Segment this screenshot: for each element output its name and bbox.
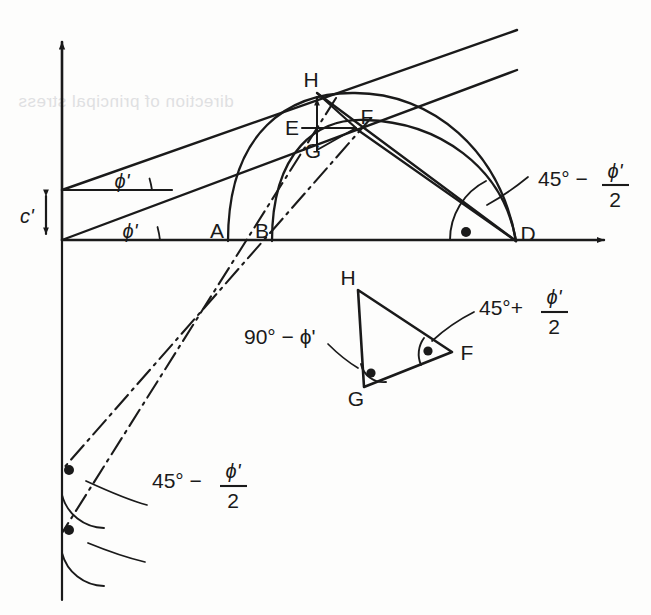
- label-tri-point-F: F: [461, 341, 474, 364]
- label-tri-point-H: H: [340, 266, 355, 289]
- phi-lower-arc: [158, 227, 161, 240]
- label-point-E: E: [285, 116, 299, 139]
- chord-F-to-D: [355, 128, 516, 241]
- vertex-dot-lower-1: [64, 465, 74, 475]
- label-phi-upper: ϕ': [115, 170, 131, 192]
- label-angle-tri-F-number: 45°+: [479, 296, 523, 319]
- vertex-dot-lower-2: [64, 525, 74, 535]
- label-point-D: D: [520, 222, 535, 245]
- leader-lower-1: [86, 481, 147, 505]
- label-point-F: F: [361, 105, 374, 128]
- label-angle-lower-numerator: ϕ': [226, 460, 242, 482]
- leader-at-D: [487, 177, 528, 205]
- angle-arc-tri-F: [419, 338, 424, 365]
- leader-tri-F: [432, 312, 474, 341]
- label-cohesion: c': [20, 205, 35, 227]
- label-point-B: B: [255, 219, 269, 242]
- construction-diagram-svg: H F E G A B D c' ϕ' ϕ' 45° − ϕ' 2 45° − …: [0, 0, 651, 615]
- label-angle-D-number: 45° −: [538, 167, 588, 190]
- label-tri-point-G: G: [348, 387, 364, 410]
- label-point-A: A: [210, 219, 224, 242]
- leader-tri-G: [328, 344, 358, 368]
- leader-lower-2: [88, 543, 145, 562]
- vertex-dot-tri-F: [423, 346, 432, 355]
- label-point-H: H: [303, 68, 318, 91]
- phi-upper-arc: [150, 179, 153, 191]
- failure-envelope-lower: [62, 70, 517, 240]
- label-angle-D-denominator: 2: [609, 188, 621, 211]
- label-point-G: G: [305, 139, 321, 162]
- vertex-dot-at-D: [461, 227, 471, 237]
- label-angle-D-numerator: ϕ': [608, 160, 624, 182]
- angle-arc-lower-2: [62, 553, 104, 586]
- label-angle-lower-number: 45° −: [152, 469, 202, 492]
- vertex-dot-tri-G: [366, 368, 375, 377]
- label-angle-tri-F-denominator: 2: [548, 315, 560, 338]
- segment-G-to-F: [317, 128, 356, 150]
- slip-line-B: [62, 118, 371, 470]
- failure-envelope-upper: [62, 30, 517, 190]
- label-angle-tri-G: 90° − ϕ': [244, 325, 315, 348]
- label-angle-lower-denominator: 2: [227, 489, 239, 512]
- label-phi-lower: ϕ': [123, 220, 139, 242]
- figure-container: direction of principal stress: [0, 0, 651, 615]
- label-angle-tri-F-numerator: ϕ': [547, 286, 563, 308]
